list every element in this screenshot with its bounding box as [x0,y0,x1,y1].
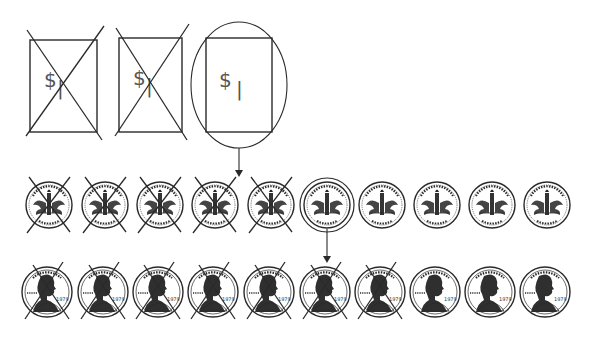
dime-coin [359,182,405,228]
arrow-icon [323,229,331,263]
penny-coin: 1979 [355,262,405,319]
dollar-bill: $| [115,24,189,140]
penny-year: 1979 [112,296,125,302]
dime-coin [300,178,354,232]
penny-coin: 1979 [78,262,128,319]
penny-coin: 1979 [465,267,515,317]
dollar-sign: $ [133,66,146,90]
dime-coin [137,177,183,233]
penny-year: 1979 [278,296,291,302]
bill-value: | [236,77,243,101]
penny-coin: 1979 [300,262,350,319]
penny-year: 1979 [56,296,69,302]
dollar-bill: $| [191,22,287,148]
dime-coin [192,177,238,233]
dime-coin [414,182,460,228]
penny-coin: 1979 [520,267,570,317]
dime-coin [248,177,294,233]
penny-coin: 1979 [410,267,460,317]
cross-out-line [115,24,189,136]
penny-coin: 1979 [188,262,238,319]
penny-year: 1979 [499,296,512,302]
cross-out-line [27,30,102,140]
penny-year: 1979 [389,296,402,302]
arrow-icon [235,148,243,177]
cross-out-line [26,26,104,136]
dime-coin [469,182,515,228]
dime-coin [26,177,72,233]
penny-year: 1979 [167,296,180,302]
penny-coin: 1979 [22,262,72,319]
diagram-canvas: $|$|$|1979197919791979197919791979197919… [0,0,604,339]
dime-coin [524,182,570,228]
dollar-sign: $ [219,68,232,92]
penny-year: 1979 [444,296,457,302]
penny-year: 1979 [554,296,567,302]
cross-out-line [116,28,187,140]
dollar-bill: $| [26,26,104,140]
dime-coin [82,177,128,233]
penny-coin: 1979 [244,262,294,319]
money-regrouping-diagram: $|$|$|1979197919791979197919791979197919… [0,0,604,339]
penny-year: 1979 [222,296,235,302]
penny-coin: 1979 [133,262,183,319]
penny-year: 1979 [334,296,347,302]
